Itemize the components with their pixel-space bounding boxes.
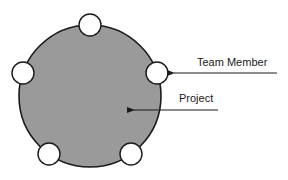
team-member-node-right [146, 62, 168, 84]
team-member-node-top [79, 14, 101, 36]
team-member-node-left [12, 62, 34, 84]
project-circle [19, 25, 161, 167]
project-label: Project [179, 93, 213, 104]
team-member-label: Team Member [197, 57, 267, 68]
team-project-diagram [0, 0, 288, 180]
team-member-node-bottom-right [120, 143, 142, 165]
team-member-node-bottom-left [38, 143, 60, 165]
